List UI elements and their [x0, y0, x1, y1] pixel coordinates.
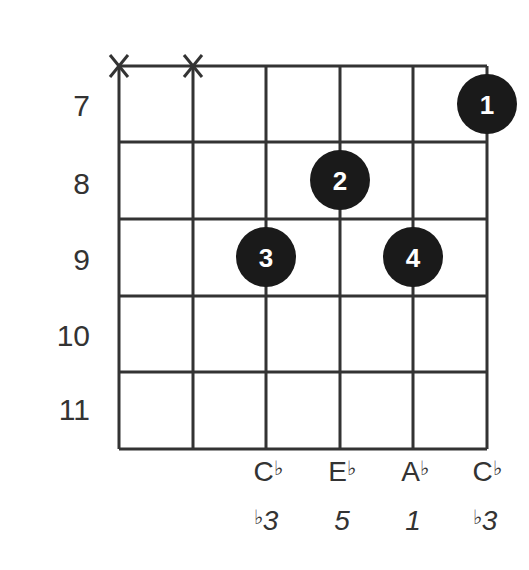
fret-label-10: 10 [30, 319, 90, 353]
interval-label: 1 [405, 505, 421, 537]
fret-label-7: 7 [30, 89, 90, 123]
fret-label-9: 9 [30, 243, 90, 277]
fret-label-8: 8 [30, 167, 90, 201]
finger-dot-4: 4 [383, 227, 443, 287]
svg-text:4: 4 [406, 243, 421, 273]
svg-text:1: 1 [480, 90, 494, 120]
fret-label-11: 11 [30, 393, 90, 427]
note-name: E♭ [328, 456, 356, 488]
finger-dot-3: 3 [236, 227, 296, 287]
interval-label: ♭3 [473, 505, 498, 537]
interval-label: 5 [334, 505, 350, 537]
note-name: A♭ [401, 456, 429, 488]
interval-label: ♭3 [254, 505, 279, 537]
note-name: C♭ [472, 456, 501, 488]
svg-text:3: 3 [259, 243, 273, 273]
svg-text:2: 2 [333, 166, 347, 196]
finger-dot-1: 1 [457, 74, 517, 134]
finger-dot-2: 2 [310, 150, 370, 210]
note-name: C♭ [253, 456, 282, 488]
